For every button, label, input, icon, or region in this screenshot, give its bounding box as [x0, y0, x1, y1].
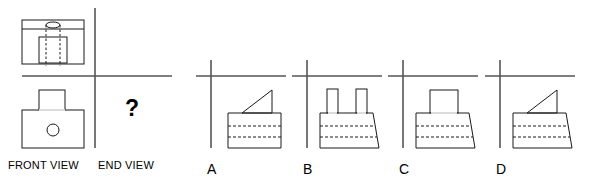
option-b-body — [320, 113, 379, 148]
end-view-label: END VIEW — [98, 160, 154, 171]
option-b-letter[interactable]: B — [303, 162, 312, 176]
given-views-group — [22, 8, 172, 148]
plan-view-ellipse — [46, 22, 60, 28]
option-c-letter[interactable]: C — [399, 162, 409, 176]
question-mark: ? — [125, 97, 139, 120]
option-a[interactable] — [196, 60, 286, 148]
option-b-prong-1 — [356, 89, 367, 113]
drawing-canvas — [0, 0, 595, 186]
option-d-top-triangle — [527, 90, 557, 113]
front-view-base — [22, 110, 84, 148]
front-view-label: FRONT VIEW — [8, 160, 79, 171]
option-b[interactable] — [292, 60, 382, 148]
front-view-boss — [39, 90, 65, 110]
answer-options-group — [196, 60, 575, 148]
projection-puzzle-stage: FRONT VIEW END VIEW ? ABCD — [0, 0, 595, 186]
option-a-body — [228, 113, 281, 148]
option-b-prong-0 — [327, 89, 338, 113]
option-d-body — [513, 113, 572, 148]
plan-view-outline — [22, 20, 84, 64]
option-a-top-triangle — [242, 90, 272, 113]
plan-view-inner-outline — [39, 37, 67, 63]
option-c-body — [416, 113, 475, 148]
front-view-circle — [47, 124, 59, 136]
option-a-letter[interactable]: A — [207, 162, 216, 176]
option-c-top-rectangle — [430, 90, 458, 113]
option-d[interactable] — [485, 60, 575, 148]
option-d-letter[interactable]: D — [496, 162, 506, 176]
option-c[interactable] — [388, 60, 478, 148]
